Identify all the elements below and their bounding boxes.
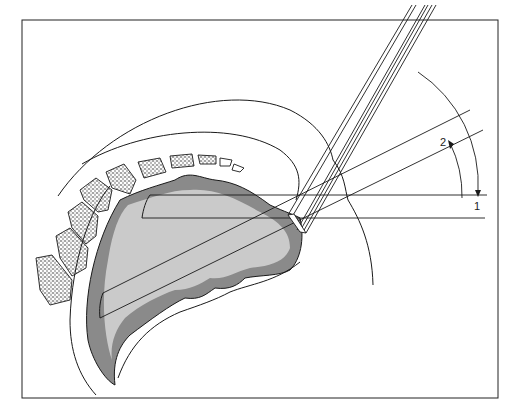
angle-arc-2 <box>450 143 462 198</box>
label-axis-1: 1 <box>474 200 480 212</box>
endoscope-tube <box>288 5 436 233</box>
label-axis-2: 2 <box>440 136 446 148</box>
angle-arc-1 <box>418 72 478 193</box>
endoscopy-diagram: 1 2 <box>0 0 517 419</box>
arrow-2-icon <box>448 140 454 149</box>
arrow-1-icon <box>475 190 481 197</box>
perineum-curve <box>333 160 373 285</box>
